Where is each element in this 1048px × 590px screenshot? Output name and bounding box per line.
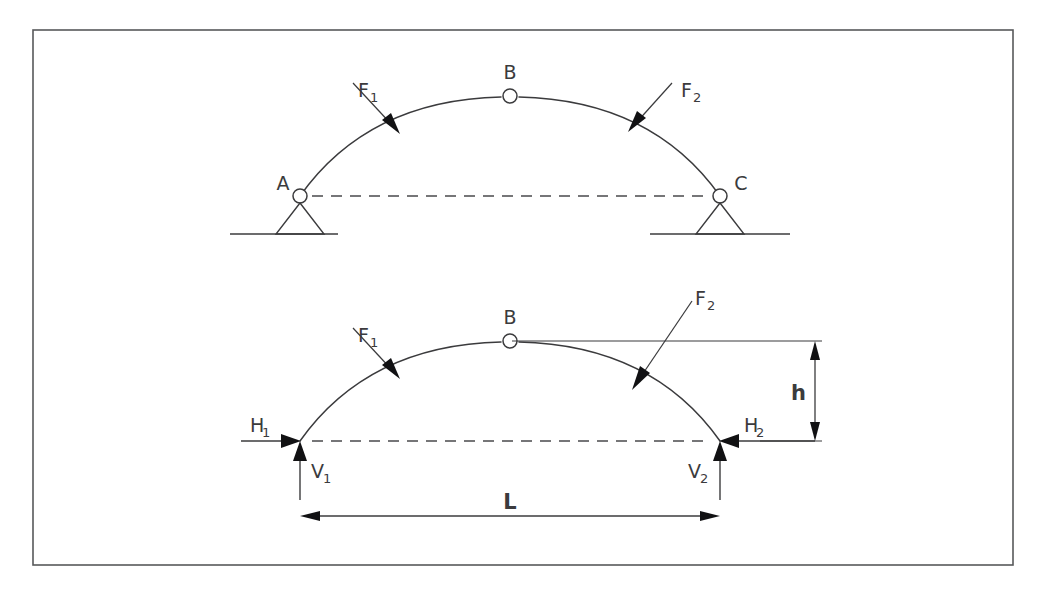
reaction-sub-v2: 2 [700,471,708,486]
load-arrowhead-f2-bottom [632,366,650,390]
node-label-a-top: A [277,172,290,194]
pin-support-c-triangle [696,203,744,234]
reaction-sub-v1: 1 [323,471,331,486]
reaction-arrowhead-v1 [293,441,307,461]
load-sub-f2-top: 2 [693,90,701,105]
dim-label-l: L [503,490,516,514]
reaction-sub-h2: 2 [756,425,764,440]
load-label-f2-top: F [681,79,692,101]
dim-arrowhead-l-left [300,511,320,521]
reaction-sub-h1: 1 [262,425,270,440]
hinge-c-top [713,189,727,203]
figure-page: B A C F 1 F 2 [0,0,1048,590]
hinge-a-top [293,189,307,203]
node-label-b-bottom: B [503,306,516,328]
node-label-c-top: C [734,172,747,194]
load-sub-f2-bottom: 2 [707,298,715,313]
figure-border [33,30,1013,565]
arch-segment-right-top [519,97,720,196]
engineering-diagram: B A C F 1 F 2 [0,0,1048,590]
reaction-arrowhead-h1 [281,434,301,448]
load-label-f1-bottom: F [358,324,369,346]
reaction-arrowhead-v2 [713,441,727,461]
load-sub-f1-top: 1 [370,90,378,105]
dim-label-h: h [791,381,806,405]
load-leader-f2-bottom [640,301,692,378]
arch-segment-right-bottom [519,342,720,441]
dim-arrowhead-h-top [810,341,820,360]
pin-support-a-triangle [276,203,324,234]
load-label-f1-top: F [358,79,369,101]
hinge-b-top [503,89,517,103]
top-diagram: B A C F 1 F 2 [230,61,790,234]
load-sub-f1-bottom: 1 [370,335,378,350]
arch-segment-left-top [300,97,501,196]
dim-arrowhead-h-bottom [810,422,820,441]
reaction-arrowhead-h2 [719,434,739,448]
arch-segment-left-bottom [300,342,501,441]
bottom-diagram: B F 1 F 2 H 1 V 1 H [241,287,822,521]
dim-arrowhead-l-right [700,511,720,521]
load-label-f2-bottom: F [695,287,706,309]
node-label-b-top: B [503,61,516,83]
